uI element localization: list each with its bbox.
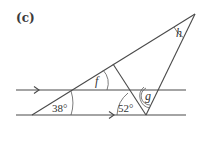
geometry-diagram: (c) 38° 52° f g h — [0, 0, 201, 154]
angle-label-f: f — [95, 74, 100, 88]
angle-label-52: 52° — [118, 102, 133, 114]
angle-label-g: g — [145, 89, 151, 103]
part-label: (c) — [16, 11, 35, 25]
angle-arc-f — [103, 70, 108, 90]
angle-label-h: h — [176, 26, 182, 40]
angle-label-38: 38° — [52, 102, 67, 114]
angle-arc-38 — [71, 91, 73, 115]
